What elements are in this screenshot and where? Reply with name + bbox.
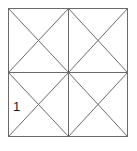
quadrant-diagram [0,0,137,151]
figure-container: 1 [0,0,137,151]
region-label-1: 1 [13,100,20,113]
